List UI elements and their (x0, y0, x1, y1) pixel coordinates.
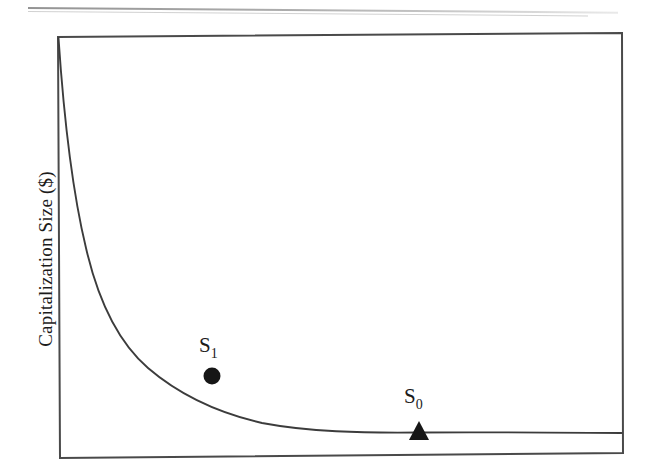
marker-s0-label-subscript: 0 (416, 397, 423, 412)
marker-s0-label-letter: S (404, 384, 416, 408)
plot-frame (58, 33, 623, 458)
figure-page: Capitalization Size ($) S1 S0 (0, 0, 645, 476)
marker-s1-circle (204, 368, 221, 385)
marker-s1-label-subscript: 1 (211, 346, 218, 361)
plot-area: S1 S0 (0, 0, 645, 476)
marker-s1-label-letter: S (199, 333, 211, 357)
